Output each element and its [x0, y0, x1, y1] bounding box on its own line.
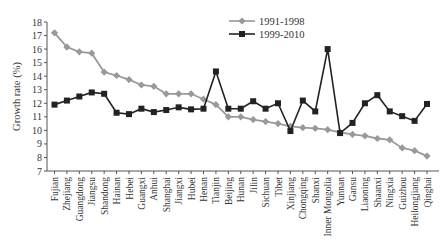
x-tick-label: Hubei — [187, 177, 197, 201]
data-point — [138, 106, 144, 112]
x-tick-label: Gansu — [348, 177, 358, 202]
data-point — [312, 125, 319, 132]
data-point — [250, 116, 257, 123]
data-point — [225, 106, 231, 112]
growth-rate-chart: 789101112131415161718 FujianZhejiangGuan… — [0, 0, 447, 245]
x-tick-label: Hunan — [236, 177, 246, 203]
data-point — [399, 113, 405, 119]
data-point — [424, 101, 430, 107]
y-tick-label: 13 — [32, 84, 42, 95]
data-point — [275, 100, 281, 106]
y-axis: 789101112131415161718 — [32, 17, 47, 177]
legend-label: 1991-1998 — [259, 16, 305, 27]
data-point — [201, 106, 207, 112]
data-point — [151, 109, 157, 115]
data-point — [387, 108, 393, 114]
data-point — [113, 72, 120, 79]
x-tick-label: Jilin — [249, 177, 259, 194]
data-point — [362, 100, 368, 106]
y-tick-label: 15 — [32, 57, 42, 68]
data-point — [101, 91, 107, 97]
x-tick-label: Guangdong — [75, 177, 85, 222]
x-tick-label: Shaanxi — [373, 177, 383, 208]
data-point — [299, 124, 306, 131]
data-point — [325, 46, 331, 52]
data-point — [175, 90, 182, 97]
legend-marker — [238, 17, 245, 24]
y-tick-label: 18 — [32, 17, 42, 28]
x-tick-label: Qinghai — [423, 177, 433, 208]
x-tick-label: Shanxi — [311, 177, 321, 204]
x-tick-label: Hebei — [125, 177, 135, 200]
data-point — [312, 108, 318, 114]
y-tick-label: 17 — [32, 30, 42, 41]
y-tick-label: 10 — [32, 125, 42, 136]
legend-item: 1991-1998 — [229, 16, 305, 27]
data-point — [213, 68, 219, 74]
x-tick-label: Hainan — [112, 177, 122, 205]
x-tick-label: Yunnan — [336, 177, 346, 206]
data-point — [64, 98, 70, 104]
series-line — [55, 33, 428, 156]
data-point — [374, 135, 381, 142]
x-tick-label: Shanghai — [162, 177, 172, 213]
x-tick-label: Jiangxi — [174, 177, 184, 205]
y-tick-label: 11 — [32, 111, 42, 122]
x-tick-label: Chongqing — [298, 177, 308, 219]
series-line — [55, 49, 428, 133]
legend-item: 1999-2010 — [229, 29, 305, 40]
series-1999-2010 — [52, 46, 431, 136]
data-point — [287, 128, 293, 134]
x-tick-label: Liaoning — [360, 177, 370, 212]
data-point — [262, 118, 269, 125]
y-tick-label: 12 — [32, 98, 42, 109]
data-point — [361, 132, 368, 139]
data-point — [126, 111, 132, 117]
data-point — [238, 106, 244, 112]
y-tick-label: 9 — [37, 138, 42, 149]
data-point — [374, 92, 380, 98]
data-point — [250, 98, 256, 104]
data-point — [138, 81, 145, 88]
data-point — [52, 102, 58, 108]
data-point — [349, 131, 356, 138]
x-tick-label: Tianjin — [211, 177, 221, 204]
y-tick-label: 16 — [32, 44, 42, 55]
series-layer — [51, 29, 431, 159]
x-axis: FujianZhejiangGuangdongJiangsuShandongHa… — [47, 171, 439, 236]
data-point — [188, 106, 194, 112]
x-tick-label: Heilongjiang — [410, 177, 420, 227]
x-tick-label: Inner Mongolia — [323, 176, 333, 236]
data-point — [125, 76, 132, 83]
x-tick-label: Beijing — [224, 177, 234, 205]
data-point — [411, 147, 418, 154]
x-tick-label: Anhui — [149, 177, 159, 201]
x-tick-label: Shandong — [100, 177, 110, 215]
x-tick-label: Sichuan — [261, 177, 271, 208]
x-tick-label: Tibet — [274, 177, 284, 197]
y-tick-label: 7 — [37, 166, 42, 177]
y-tick-label: 8 — [37, 152, 42, 163]
x-tick-label: Guizhou — [398, 177, 408, 210]
data-point — [187, 90, 194, 97]
data-point — [324, 126, 331, 133]
series-1991-1998 — [51, 29, 431, 159]
x-tick-label: Ningxia — [385, 176, 395, 207]
data-point — [176, 104, 182, 110]
data-point — [274, 120, 281, 127]
y-axis-title: Growth rate (%) — [11, 62, 23, 131]
data-point — [300, 98, 306, 104]
data-point — [412, 118, 418, 124]
x-tick-label: Jiangsu — [87, 177, 97, 206]
x-tick-label: Fujian — [50, 177, 60, 202]
data-point — [76, 94, 82, 100]
x-tick-label: Guangxi — [137, 177, 147, 210]
legend-marker — [239, 31, 245, 37]
data-point — [263, 106, 269, 112]
x-tick-label: Henan — [199, 177, 209, 202]
data-point — [76, 48, 83, 55]
data-point — [423, 153, 430, 160]
legend: 1991-19981999-2010 — [229, 16, 305, 40]
legend-label: 1999-2010 — [259, 29, 305, 40]
data-point — [114, 110, 120, 116]
